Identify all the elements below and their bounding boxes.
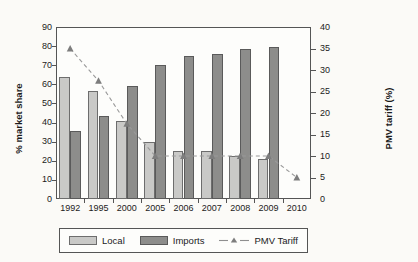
bar-swatch-light-icon [69,236,97,245]
y-axis-right-tick-label: 30 [320,66,344,75]
bar-local-2008 [229,156,240,199]
y-axis-right-tickmark [311,178,316,179]
bar-local-2000 [116,121,127,199]
y-axis-right-tick-label: 15 [320,130,344,139]
bar-imports-1995 [99,116,110,199]
dashed-line-triangle-marker-icon [219,236,249,245]
y-axis-right-tick-label: 0 [320,195,344,204]
legend-item-local: Local [69,235,125,246]
bar-imports-2000 [127,86,138,199]
y-axis-right-tickmark [311,135,316,136]
chart-figure: % market share PMV tariff (%) 0102030405… [0,0,418,262]
x-axis-tickmark [283,199,284,203]
x-axis-tickmark [198,199,199,203]
y-axis-right-tickmark [311,70,316,71]
legend-label-local: Local [102,235,125,246]
y-axis-right-tick-label: 5 [320,173,344,182]
x-axis-tickmark [84,199,85,203]
y-axis-left-tickmark [52,65,56,66]
bar-local-2009 [258,159,269,199]
y-axis-left-tickmark [52,46,56,47]
legend-label-pmv-tariff: PMV Tariff [254,235,297,246]
bar-imports-2007 [212,54,223,199]
y-axis-left-tickmark [52,180,56,181]
y-axis-right-tick-label: 10 [320,152,344,161]
bar-imports-2008 [240,49,251,199]
bar-local-1995 [88,91,99,199]
y-axis-right-tick-label: 20 [320,109,344,118]
y-axis-right-tickmark [311,49,316,50]
bar-imports-1992 [70,131,81,199]
y-axis-right-tickmark [311,156,316,157]
y-axis-left-tick-label: 10 [28,175,52,184]
y-axis-left-tick-label: 40 [28,118,52,127]
x-axis-tickmark [226,199,227,203]
y-axis-left-tickmark [52,123,56,124]
bar-imports-2005 [155,65,166,199]
y-axis-left-tick-label: 0 [28,195,52,204]
x-axis-tickmark [141,199,142,203]
y-axis-right-title: PMV tariff (%) [383,49,394,189]
legend-item-imports: Imports [140,235,205,246]
legend-label-imports: Imports [173,235,205,246]
bar-imports-2006 [184,56,195,199]
y-axis-right-tick-label: 40 [320,23,344,32]
y-axis-right-tick-label: 35 [320,44,344,53]
y-axis-left-tick-label: 70 [28,61,52,70]
x-axis-tickmark [254,199,255,203]
bar-local-1992 [59,77,70,199]
y-axis-left-tick-label: 60 [28,80,52,89]
bar-local-2007 [201,151,212,199]
y-axis-right-tick-label: 25 [320,87,344,96]
legend-item-pmv-tariff: PMV Tariff [219,235,297,246]
bar-local-2006 [173,151,184,199]
y-axis-left-tick-label: 50 [28,99,52,108]
y-axis-left-tick-label: 80 [28,42,52,51]
y-axis-left-tick-label: 20 [28,156,52,165]
x-axis-tick-label: 2010 [277,203,317,213]
chart-legend: Local Imports PMV Tariff [59,228,308,253]
y-axis-left-tickmark [52,103,56,104]
x-axis-tickmark [169,199,170,203]
bar-local-2005 [144,142,155,199]
y-axis-left-tickmark [52,161,56,162]
y-axis-left-tickmark [52,84,56,85]
y-axis-right-tickmark [311,113,316,114]
x-axis-tickmark [113,199,114,203]
y-axis-left-tick-label: 90 [28,23,52,32]
bar-swatch-dark-icon [140,236,168,245]
y-axis-right-tickmark [311,92,316,93]
bar-imports-2009 [269,47,280,199]
y-axis-left-title: % market share [13,49,24,189]
y-axis-left-tick-label: 30 [28,137,52,146]
y-axis-left-tickmark [52,142,56,143]
